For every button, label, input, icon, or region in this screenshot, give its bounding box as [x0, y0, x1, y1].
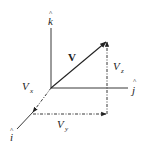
i-axis [17, 112, 33, 129]
j-label-text: j [130, 84, 135, 96]
vz-label-main: V [113, 60, 121, 72]
vector-v-arrow [51, 42, 106, 88]
k-axis-label: k ^ [48, 9, 54, 27]
i-hat: ^ [10, 126, 14, 134]
vector-v-label: V [68, 51, 76, 63]
vx-component-arrow [33, 88, 51, 112]
vy-label: V y [57, 118, 69, 133]
vx-label-main: V [22, 80, 30, 92]
vector-components-diagram: k ^ j ^ i ^ V V x V y V z [0, 0, 147, 147]
vz-label: V z [113, 60, 124, 75]
vy-label-main: V [57, 118, 65, 130]
i-axis-label: i ^ [10, 126, 14, 143]
j-axis-label: j ^ [130, 77, 137, 96]
vx-label-subscript: x [29, 87, 34, 95]
vy-label-subscript: y [64, 125, 69, 133]
j-hat: ^ [133, 77, 137, 85]
vz-label-subscript: z [120, 67, 124, 75]
vx-label: V x [22, 80, 34, 95]
